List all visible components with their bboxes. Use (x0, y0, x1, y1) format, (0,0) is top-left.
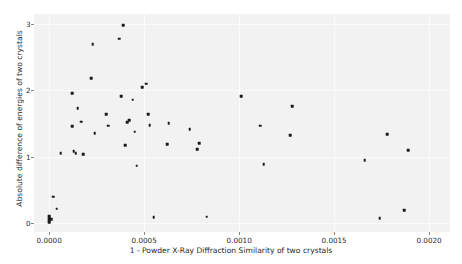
data-point (168, 122, 171, 125)
data-point (289, 134, 292, 137)
y-tick-label: 0 (26, 219, 31, 228)
data-point (378, 217, 381, 220)
data-point (152, 216, 155, 219)
y-tick-label: 2 (26, 86, 31, 95)
data-point (131, 98, 134, 101)
data-point (90, 77, 93, 80)
data-point (407, 149, 410, 152)
data-point (124, 144, 127, 147)
x-axis-label: 1 - Powder X-Ray Diffraction Similarity … (0, 246, 462, 255)
y-gridline (34, 157, 450, 158)
x-tick-label: 0.0005 (132, 236, 157, 245)
data-point (403, 209, 406, 212)
y-gridline (34, 90, 450, 91)
data-point (71, 92, 74, 95)
data-point (55, 207, 58, 210)
y-tick-label: 1 (26, 152, 31, 161)
y-tick-mark (31, 223, 34, 224)
x-tick-mark (49, 232, 50, 235)
data-point (80, 120, 83, 123)
data-point (122, 24, 125, 27)
data-point (59, 152, 62, 155)
x-tick-label: 0.0010 (227, 236, 252, 245)
data-point (92, 43, 95, 46)
data-point (166, 143, 169, 146)
x-tick-mark (239, 232, 240, 235)
x-gridline (334, 14, 335, 232)
data-point (135, 164, 138, 167)
data-point (149, 124, 152, 127)
x-gridline (429, 14, 430, 232)
data-point (118, 37, 121, 40)
data-point (263, 163, 266, 166)
x-tick-mark (429, 232, 430, 235)
data-point (386, 133, 389, 136)
data-point (82, 153, 85, 156)
y-tick-mark (31, 90, 34, 91)
data-point (198, 142, 201, 145)
data-point (147, 113, 150, 116)
data-point (48, 215, 51, 218)
y-axis-label: Absolute difference of energies of two c… (15, 9, 24, 229)
x-tick-mark (334, 232, 335, 235)
data-point (71, 125, 74, 128)
data-point (188, 128, 191, 131)
x-gridline (49, 14, 50, 232)
x-tick-label: 0.0015 (322, 236, 347, 245)
data-point (206, 215, 209, 218)
data-point (259, 124, 262, 127)
data-point (107, 124, 110, 127)
data-point (291, 105, 294, 108)
plot-area (34, 14, 450, 232)
x-tick-label: 0.0020 (417, 236, 442, 245)
data-point (363, 159, 366, 162)
x-tick-mark (144, 232, 145, 235)
y-tick-mark (31, 24, 34, 25)
y-gridline (34, 223, 450, 224)
x-tick-label: 0.0000 (37, 236, 62, 245)
data-point (145, 82, 148, 85)
data-point (196, 148, 199, 151)
data-point (240, 95, 243, 98)
data-point (74, 152, 77, 155)
x-gridline (144, 14, 145, 232)
data-point (93, 132, 96, 135)
y-gridline (34, 24, 450, 25)
scatter-plot-figure: 1 - Powder X-Ray Diffraction Similarity … (0, 0, 462, 264)
data-point (128, 119, 131, 122)
y-tick-mark (31, 157, 34, 158)
data-point (76, 107, 79, 110)
data-point (105, 113, 108, 116)
data-point (52, 195, 55, 198)
data-point (50, 218, 53, 221)
data-point (133, 130, 136, 133)
y-tick-label: 3 (26, 19, 31, 28)
data-point (141, 86, 144, 89)
x-gridline (239, 14, 240, 232)
data-point (120, 95, 123, 98)
